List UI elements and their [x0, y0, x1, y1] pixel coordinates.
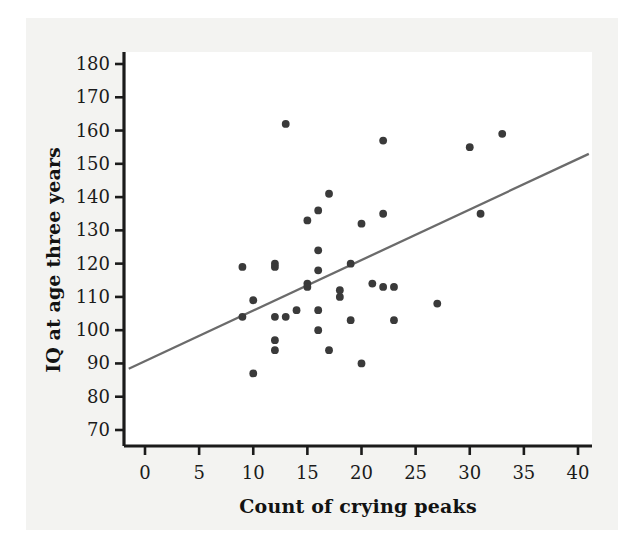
scatter-point: [282, 120, 290, 128]
scatter-point: [390, 316, 398, 324]
y-axis-title: IQ at age three years: [42, 90, 64, 430]
x-axis-tick-label: 25: [404, 464, 427, 482]
scatter-point: [347, 316, 355, 324]
scatter-point: [271, 313, 279, 321]
scatter-point: [358, 220, 366, 228]
y-axis-tick-label: 180: [48, 55, 110, 73]
scatter-point: [314, 306, 322, 314]
scatter-point: [271, 263, 279, 271]
scatter-point: [379, 137, 387, 145]
x-axis-title: Count of crying peaks: [124, 495, 592, 517]
x-axis-tick-label: 40: [567, 464, 590, 482]
regression-line: [129, 154, 589, 369]
scatter-point: [293, 306, 301, 314]
x-axis-tick-label: 10: [242, 464, 265, 482]
scatter-point: [314, 326, 322, 334]
scatter-point: [239, 263, 247, 271]
x-axis-tick-label: 35: [512, 464, 535, 482]
scatter-point: [271, 336, 279, 344]
x-axis-tick-label: 5: [193, 464, 204, 482]
scatter-point: [282, 313, 290, 321]
scatter-point: [358, 360, 366, 368]
scatter-point: [390, 283, 398, 291]
scatter-point: [314, 246, 322, 254]
scatter-point: [477, 210, 485, 218]
scatter-point: [325, 346, 333, 354]
scatter-point: [466, 143, 474, 151]
scatter-point: [314, 207, 322, 215]
scatter-point: [336, 293, 344, 301]
scatter-point: [249, 370, 257, 378]
x-axis-tick-label: 20: [350, 464, 373, 482]
scatter-plot-figure: 708090100110120130140150160170180 051015…: [0, 0, 638, 551]
x-axis-tick-label: 30: [458, 464, 481, 482]
chart-area: 708090100110120130140150160170180 051015…: [0, 0, 638, 551]
scatter-point: [336, 286, 344, 294]
x-axis-tick-label: 15: [296, 464, 319, 482]
scatter-point: [379, 210, 387, 218]
scatter-point: [433, 300, 441, 308]
x-axis-tick-label: 0: [139, 464, 150, 482]
scatter-point: [303, 216, 311, 224]
scatter-point: [325, 190, 333, 198]
scatter-point: [239, 313, 247, 321]
scatter-point: [303, 283, 311, 291]
plot-svg: [0, 0, 638, 551]
scatter-point: [347, 260, 355, 268]
scatter-points-group: [239, 120, 507, 377]
scatter-point: [249, 296, 257, 304]
scatter-point: [368, 280, 376, 288]
scatter-point: [498, 130, 506, 138]
scatter-point: [379, 283, 387, 291]
scatter-point: [271, 346, 279, 354]
scatter-point: [314, 266, 322, 274]
